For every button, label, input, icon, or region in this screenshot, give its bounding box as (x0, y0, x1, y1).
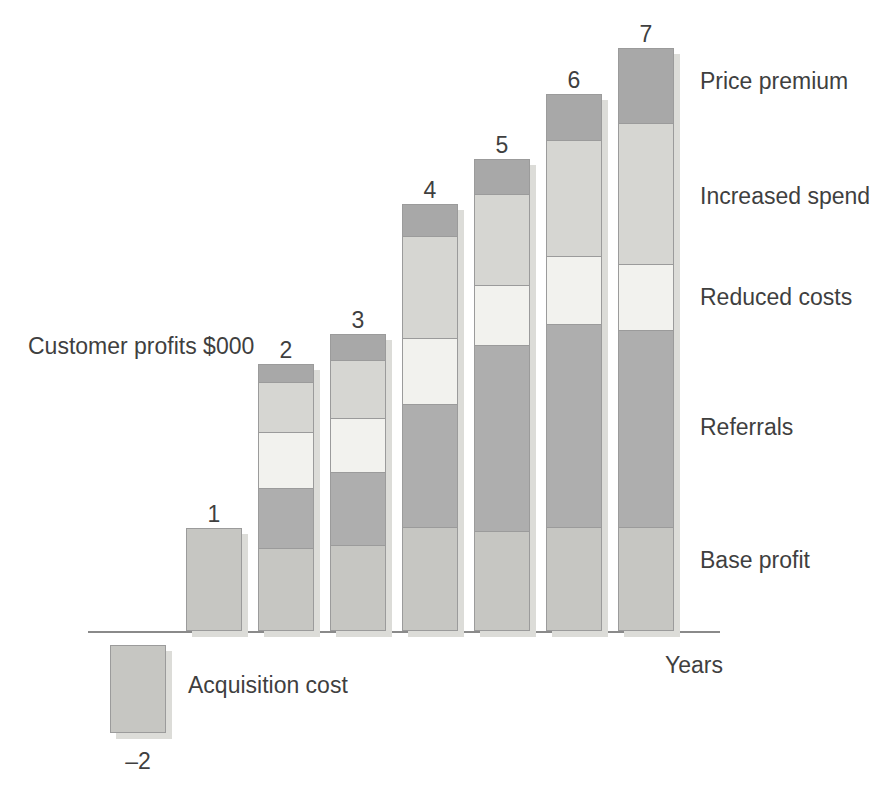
segment-reduced-costs[interactable] (258, 432, 314, 488)
acquisition-cost-box[interactable] (110, 645, 166, 733)
segment-reduced-costs[interactable] (330, 418, 386, 472)
segment-increased-spend[interactable] (258, 382, 314, 432)
bar-year-5[interactable] (474, 0, 530, 788)
segment-base-profit[interactable] (258, 548, 314, 631)
segment-price-premium[interactable] (618, 48, 674, 123)
segment-base-profit[interactable] (546, 527, 602, 631)
acquisition-cost-bar[interactable] (110, 645, 172, 739)
segment-price-premium[interactable] (474, 159, 530, 194)
segment-referrals[interactable] (474, 345, 530, 531)
segment-reduced-costs[interactable] (618, 264, 674, 330)
segment-price-premium[interactable] (546, 94, 602, 140)
chart-container: Customer profits $000 Years 1 2 3 (0, 0, 883, 788)
series-label-referrals: Referrals (700, 414, 793, 441)
plot-area: Customer profits $000 Years 1 2 3 (0, 0, 883, 788)
bar-year-2[interactable] (258, 0, 314, 788)
segment-price-premium[interactable] (330, 334, 386, 360)
segment-reduced-costs[interactable] (546, 256, 602, 324)
segment-base-profit[interactable] (474, 531, 530, 631)
segment-increased-spend[interactable] (402, 236, 458, 338)
segment-referrals[interactable] (330, 472, 386, 545)
segment-reduced-costs[interactable] (402, 338, 458, 404)
segment-base-profit[interactable] (186, 528, 242, 631)
segment-price-premium[interactable] (402, 204, 458, 236)
segment-increased-spend[interactable] (546, 140, 602, 256)
segment-increased-spend[interactable] (618, 123, 674, 264)
series-label-price-premium: Price premium (700, 68, 848, 95)
acquisition-cost-label: Acquisition cost (188, 672, 348, 699)
segment-price-premium[interactable] (258, 364, 314, 382)
segment-increased-spend[interactable] (330, 360, 386, 418)
segment-base-profit[interactable] (402, 527, 458, 631)
bar-year-4[interactable] (402, 0, 458, 788)
series-label-base-profit: Base profit (700, 547, 810, 574)
bar-year-6[interactable] (546, 0, 602, 788)
bar-year-1[interactable] (186, 0, 242, 788)
segment-base-profit[interactable] (618, 527, 674, 631)
bar-year-3[interactable] (330, 0, 386, 788)
segment-referrals[interactable] (546, 324, 602, 527)
segment-increased-spend[interactable] (474, 194, 530, 285)
segment-referrals[interactable] (258, 488, 314, 548)
segment-referrals[interactable] (402, 404, 458, 527)
segment-reduced-costs[interactable] (474, 285, 530, 345)
bar-year-7[interactable] (618, 0, 674, 788)
series-label-increased-spend: Increased spend (700, 183, 870, 210)
segment-referrals[interactable] (618, 330, 674, 527)
series-label-reduced-costs: Reduced costs (700, 284, 852, 311)
acquisition-cost-value: –2 (110, 748, 166, 775)
segment-base-profit[interactable] (330, 545, 386, 631)
